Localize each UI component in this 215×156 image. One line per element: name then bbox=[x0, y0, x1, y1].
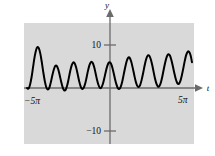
y-axis-label: y bbox=[104, 0, 109, 10]
plot-panel-background bbox=[24, 23, 194, 144]
waveform-chart: y t 10 −10 −5π 5π bbox=[0, 0, 215, 156]
x-tick-label-minus-5pi: −5π bbox=[24, 96, 40, 106]
y-axis-arrowhead bbox=[106, 9, 114, 17]
figure-container: y t 10 −10 −5π 5π bbox=[0, 0, 215, 156]
y-tick-label-10: 10 bbox=[92, 40, 102, 50]
t-axis-arrowhead bbox=[195, 84, 203, 92]
t-axis-label: t bbox=[207, 83, 210, 93]
x-tick-label-5pi: 5π bbox=[178, 95, 188, 105]
y-tick-label-minus-10: −10 bbox=[86, 126, 101, 136]
